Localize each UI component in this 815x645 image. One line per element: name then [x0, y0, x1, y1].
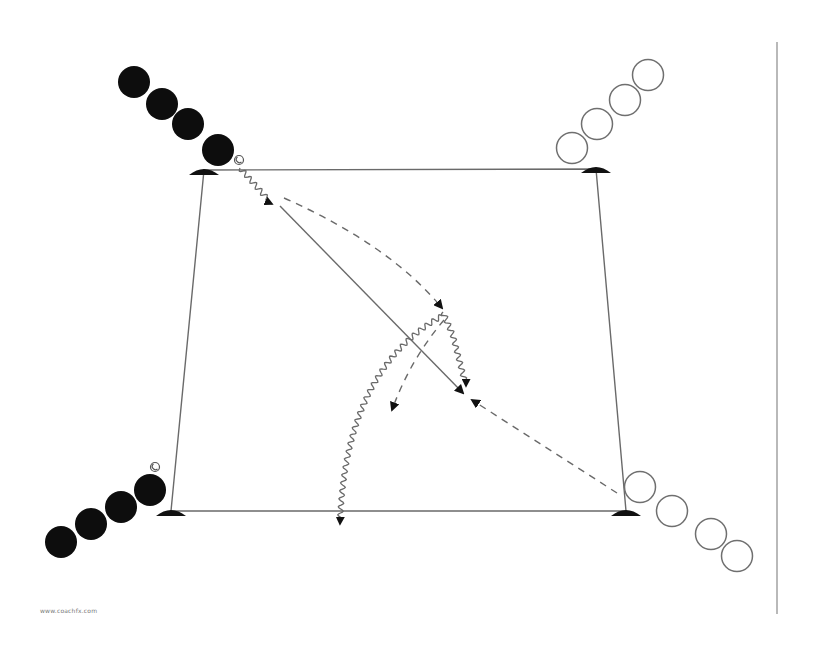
- players: [45, 60, 753, 572]
- run-dashed-back-arrow: [472, 400, 617, 493]
- ball-bottom-left-icon: [151, 463, 160, 472]
- light-group-bottom-right: [625, 472, 753, 572]
- cone-top-right-icon: [581, 167, 611, 173]
- light-player-icon: [722, 541, 753, 572]
- dribble-long-curve-arrow: [338, 315, 442, 524]
- dark-player-icon: [45, 526, 77, 558]
- dribble-start-top-left-arrow: [239, 168, 272, 204]
- light-player-icon: [657, 496, 688, 527]
- ball-top-left-icon: [235, 156, 244, 165]
- dark-player-icon: [75, 508, 107, 540]
- dark-player-icon: [105, 491, 137, 523]
- dark-player-icon: [146, 88, 178, 120]
- pitch-boundary: [171, 169, 626, 511]
- drill-diagram: [0, 0, 815, 645]
- dark-group-bottom-left: [45, 474, 166, 558]
- cones: [156, 167, 641, 516]
- light-group-top-right: [557, 60, 664, 164]
- balls: [151, 156, 244, 472]
- watermark-text: www.coachfx.com: [40, 607, 97, 614]
- dark-player-icon: [134, 474, 166, 506]
- light-player-icon: [633, 60, 664, 91]
- light-player-icon: [625, 472, 656, 503]
- dark-player-icon: [202, 134, 234, 166]
- light-player-icon: [610, 85, 641, 116]
- light-player-icon: [696, 519, 727, 550]
- dark-player-icon: [172, 108, 204, 140]
- light-player-icon: [582, 109, 613, 140]
- dark-group-top-left: [118, 66, 234, 166]
- movement-lines: [239, 168, 617, 524]
- dark-player-icon: [118, 66, 150, 98]
- light-player-icon: [557, 133, 588, 164]
